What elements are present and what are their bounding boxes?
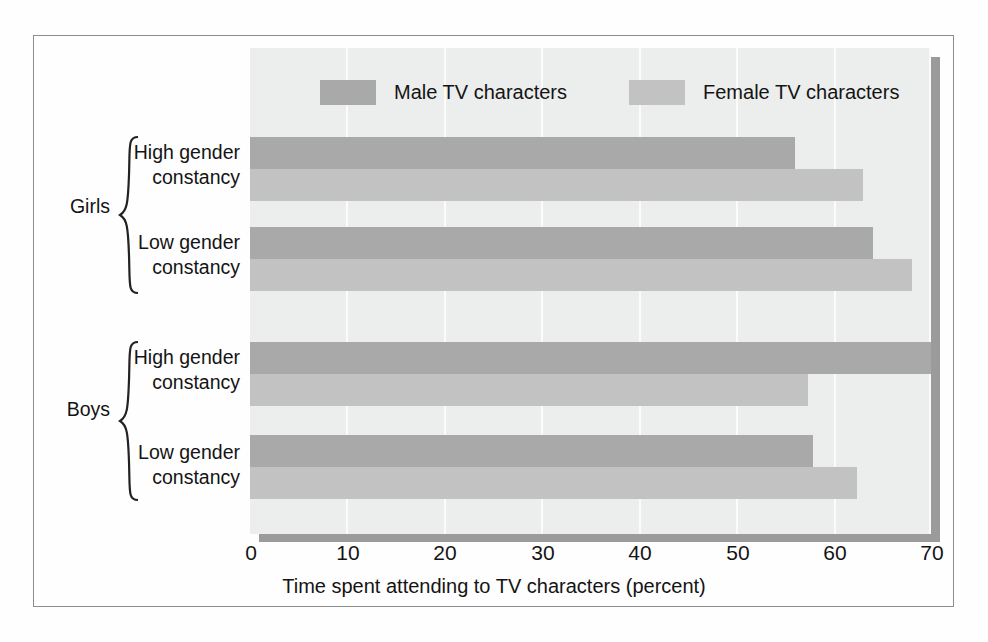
cat-label-boys-high-line1: High gender [110, 345, 240, 370]
legend: Male TV characters Female TV characters [320, 78, 899, 106]
legend-swatch-male-icon [320, 80, 376, 105]
xtick-20: 20 [415, 541, 475, 565]
cat-label-boys-high: High gender constancy [110, 345, 240, 395]
figure-container: Male TV characters Female TV characters … [0, 0, 988, 642]
bar-girls-low-female [250, 259, 912, 291]
cat-label-girls-high-line1: High gender [110, 140, 240, 165]
cat-label-girls-low: Low gender constancy [110, 230, 240, 280]
cat-label-boys-low-line1: Low gender [110, 440, 240, 465]
gridline-70 [929, 48, 931, 534]
cat-label-boys-high-line2: constancy [110, 370, 240, 395]
legend-swatch-female-icon [629, 80, 685, 105]
cat-label-boys-low: Low gender constancy [110, 440, 240, 490]
group-label-girls: Girls [40, 195, 110, 218]
cat-label-boys-low-line2: constancy [110, 465, 240, 490]
cat-label-girls-low-line2: constancy [110, 255, 240, 280]
cat-label-girls-high: High gender constancy [110, 140, 240, 190]
bar-boys-high-female [250, 374, 808, 406]
xtick-0: 0 [221, 541, 281, 565]
cat-label-girls-high-line2: constancy [110, 165, 240, 190]
xtick-30: 30 [513, 541, 573, 565]
xtick-70: 70 [902, 541, 962, 565]
legend-item-female: Female TV characters [629, 80, 899, 105]
bar-boys-high-male [250, 342, 931, 374]
group-label-boys: Boys [40, 398, 110, 421]
legend-item-male: Male TV characters [320, 80, 567, 105]
xtick-40: 40 [610, 541, 670, 565]
x-axis-title: Time spent attending to TV characters (p… [0, 575, 988, 598]
bar-boys-low-female [250, 467, 857, 499]
xtick-50: 50 [708, 541, 768, 565]
plot-shadow-right [931, 57, 940, 542]
xtick-10: 10 [318, 541, 378, 565]
bar-girls-high-female [250, 169, 863, 201]
legend-label-female: Female TV characters [703, 81, 899, 104]
plot-area [250, 48, 931, 534]
cat-label-girls-low-line1: Low gender [110, 230, 240, 255]
gridline-60 [834, 48, 836, 534]
legend-label-male: Male TV characters [394, 81, 567, 104]
bar-boys-low-male [250, 435, 813, 467]
bar-girls-high-male [250, 137, 795, 169]
xtick-60: 60 [805, 541, 865, 565]
bar-girls-low-male [250, 227, 873, 259]
